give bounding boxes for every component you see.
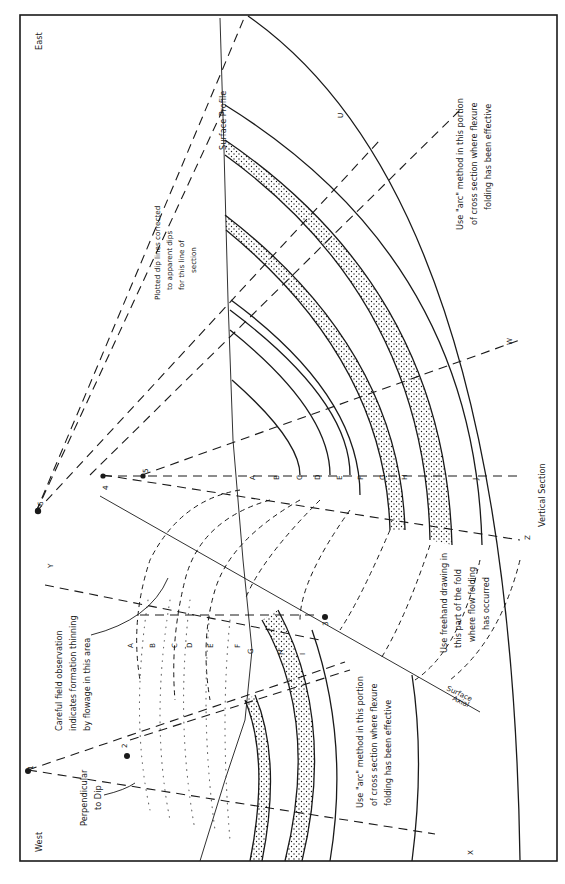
svg-text:H: H [400, 475, 409, 480]
focus-point-4 [100, 473, 105, 478]
focus-point-3 [322, 614, 328, 620]
svg-text:Use freehand drawing in: Use freehand drawing in [439, 553, 449, 653]
svg-text:folding has been effective: folding has been effective [383, 700, 393, 806]
svg-text:A: A [248, 475, 257, 480]
cross-section-diagram: 6 4 5 3 2 1 U W Z Y X A B C D E F G H J … [0, 0, 565, 884]
surface-profile-label: Surface Profile [218, 91, 228, 150]
svg-text:by flowage in this area: by flowage in this area [82, 638, 92, 731]
focus-point-2 [124, 753, 130, 759]
dip-label-x: X [466, 850, 475, 855]
svg-text:for this line of: for this line of [177, 240, 186, 290]
svg-text:E: E [335, 475, 344, 480]
svg-text:Perpendicular: Perpendicular [79, 769, 89, 826]
svg-text:B: B [272, 475, 281, 480]
focus-point-5 [140, 473, 145, 478]
point-label-3: 3 [321, 621, 330, 626]
svg-text:I: I [298, 653, 307, 655]
svg-text:J: J [471, 478, 480, 481]
svg-text:E: E [206, 643, 215, 648]
svg-text:Use "arc" method in this porti: Use "arc" method in this portion [455, 98, 465, 230]
focus-point-6 [35, 508, 41, 514]
svg-text:A: A [126, 643, 135, 648]
svg-text:folding has been effective: folding has been effective [483, 104, 493, 210]
annotation-plotted-dip: Plotted dip lines corrected to apparent … [153, 206, 198, 300]
svg-text:this part of the fold: this part of the fold [453, 569, 463, 648]
svg-text:H: H [276, 650, 285, 655]
svg-text:section: section [189, 247, 198, 273]
point-label-4: 4 [101, 485, 110, 490]
east-label: East [34, 32, 44, 50]
dip-label-y: Y [46, 563, 55, 569]
svg-text:indicates formation thinning: indicates formation thinning [68, 615, 78, 731]
thinning-dotted-contours [139, 600, 230, 840]
svg-text:G: G [378, 474, 387, 480]
dip-label-u: U [336, 113, 345, 118]
annotation-field-obs: Careful field observation indicates form… [54, 578, 168, 731]
svg-text:B: B [148, 643, 157, 648]
svg-text:Use "arc" method in this porti: Use "arc" method in this portion [355, 676, 365, 808]
dip-label-z: Z [523, 535, 532, 540]
point-label-1: 1 [26, 765, 35, 770]
svg-text:C: C [170, 643, 179, 648]
svg-text:F: F [356, 476, 365, 480]
svg-text:Careful field observation: Careful field observation [54, 630, 64, 731]
vertical-section-label: Vertical Section [537, 463, 547, 527]
svg-text:has occurred: has occurred [481, 577, 491, 630]
point-label-2: 2 [120, 743, 129, 748]
annotation-perpendicular: Perpendicular to Dip [79, 769, 135, 826]
west-label: West [34, 831, 44, 852]
svg-text:of cross section where flexure: of cross section where flexure [469, 103, 479, 225]
svg-text:Plotted dip lines corrected: Plotted dip lines corrected [153, 206, 162, 300]
svg-text:D: D [185, 642, 194, 648]
annotation-freehand: Use freehand drawing in this part of the… [439, 553, 491, 653]
svg-text:F: F [233, 644, 242, 648]
svg-text:D: D [313, 474, 322, 480]
svg-text:C: C [295, 475, 304, 480]
annotation-arc-west: Use "arc" method in this portion of cros… [355, 676, 393, 808]
svg-text:to apparent dips: to apparent dips [165, 231, 174, 290]
svg-text:to Dip: to Dip [93, 785, 103, 810]
point-label-6: 6 [36, 501, 45, 506]
svg-text:where flow folding: where flow folding [467, 567, 477, 642]
point-label-5: 5 [141, 468, 150, 473]
annotation-arc-east: Use "arc" method in this portion of cros… [455, 98, 493, 230]
svg-text:of cross section where flexure: of cross section where flexure [369, 684, 379, 806]
svg-text:G: G [246, 648, 255, 654]
dip-label-w: W [505, 338, 514, 345]
